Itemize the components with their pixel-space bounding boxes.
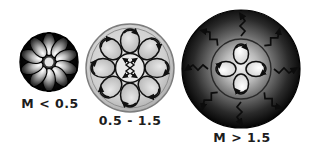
panel-mid-mass	[82, 18, 178, 122]
low-mass-core-glow	[45, 58, 54, 67]
label-high-mass: M > 1.5	[193, 130, 291, 145]
mid-mass-star-svg	[82, 18, 178, 122]
panel-high-mass	[181, 9, 302, 133]
label-mid-mass: 0.5 - 1.5	[82, 113, 178, 128]
diagram-canvas: M < 0.5	[0, 0, 311, 155]
high-mass-star-svg	[181, 9, 302, 133]
